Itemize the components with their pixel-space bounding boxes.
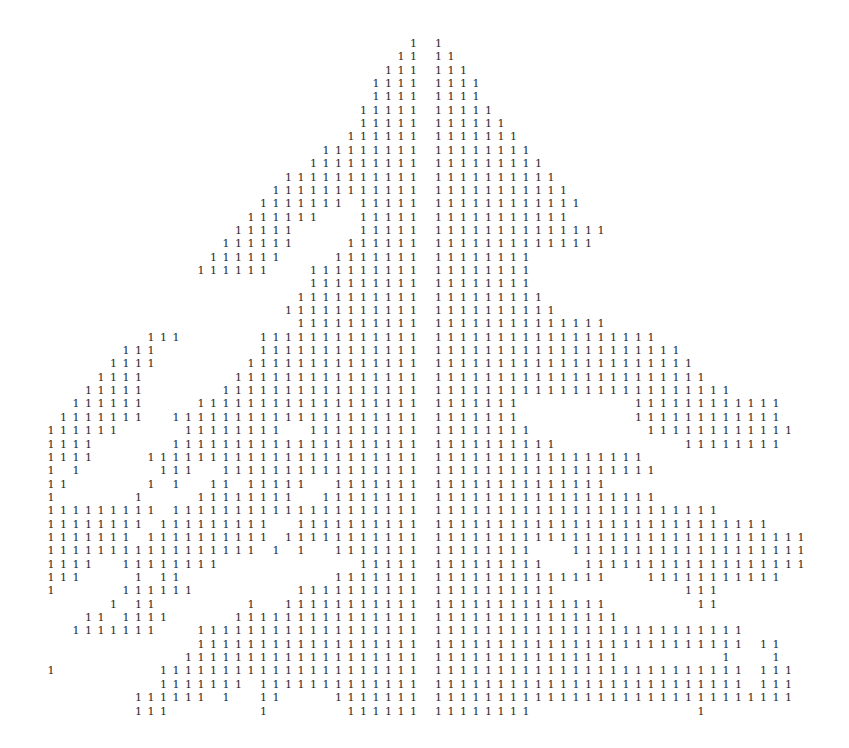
plot-glyph: 1 — [510, 625, 518, 636]
plot-glyph: 1 — [335, 679, 343, 690]
plot-glyph: 1 — [260, 679, 268, 690]
plot-glyph: 1 — [285, 599, 293, 610]
plot-glyph: 1 — [497, 185, 505, 196]
plot-glyph: 1 — [722, 652, 730, 663]
plot-glyph: 1 — [435, 358, 443, 369]
plot-glyph: 1 — [285, 505, 293, 516]
plot-glyph: 1 — [322, 639, 330, 650]
plot-glyph: 1 — [297, 305, 305, 316]
plot-glyph: 1 — [222, 625, 230, 636]
plot-glyph: 1 — [222, 238, 230, 249]
plot-glyph: 1 — [372, 612, 380, 623]
plot-glyph: 1 — [410, 172, 418, 183]
plot-glyph: 1 — [622, 639, 630, 650]
plot-glyph: 1 — [435, 599, 443, 610]
plot-glyph: 1 — [347, 665, 355, 676]
plot-glyph: 1 — [472, 372, 480, 383]
plot-glyph: 1 — [710, 585, 718, 596]
plot-glyph: 1 — [372, 559, 380, 570]
plot-glyph: 1 — [672, 412, 680, 423]
plot-glyph: 1 — [447, 679, 455, 690]
plot-glyph: 1 — [510, 212, 518, 223]
plot-glyph: 1 — [360, 292, 368, 303]
plot-glyph: 1 — [472, 118, 480, 129]
plot-glyph: 1 — [547, 599, 555, 610]
plot-glyph: 1 — [372, 519, 380, 530]
plot-glyph: 1 — [660, 559, 668, 570]
plot-glyph: 1 — [447, 452, 455, 463]
plot-glyph: 1 — [197, 505, 205, 516]
plot-glyph: 1 — [385, 612, 393, 623]
plot-glyph: 1 — [772, 545, 780, 556]
plot-glyph: 1 — [247, 479, 255, 490]
plot-glyph: 1 — [372, 398, 380, 409]
plot-glyph: 1 — [85, 532, 93, 543]
plot-glyph: 1 — [385, 185, 393, 196]
plot-glyph: 1 — [560, 612, 568, 623]
plot-glyph: 1 — [485, 585, 493, 596]
plot-glyph: 1 — [497, 599, 505, 610]
plot-glyph: 1 — [385, 105, 393, 116]
plot-glyph: 1 — [397, 198, 405, 209]
plot-glyph: 1 — [647, 692, 655, 703]
plot-glyph: 1 — [635, 385, 643, 396]
plot-glyph: 1 — [210, 679, 218, 690]
plot-glyph: 1 — [460, 665, 468, 676]
plot-glyph: 1 — [497, 612, 505, 623]
plot-glyph: 1 — [347, 692, 355, 703]
plot-glyph: 1 — [335, 492, 343, 503]
plot-glyph: 1 — [485, 519, 493, 530]
plot-glyph: 1 — [560, 238, 568, 249]
plot-glyph: 1 — [360, 612, 368, 623]
plot-glyph: 1 — [335, 292, 343, 303]
plot-glyph: 1 — [472, 639, 480, 650]
plot-glyph: 1 — [572, 545, 580, 556]
plot-glyph: 1 — [460, 118, 468, 129]
plot-glyph: 1 — [760, 679, 768, 690]
plot-glyph: 1 — [710, 625, 718, 636]
plot-glyph: 1 — [222, 425, 230, 436]
plot-glyph: 1 — [635, 412, 643, 423]
plot-glyph: 1 — [110, 425, 118, 436]
plot-glyph: 1 — [222, 665, 230, 676]
plot-glyph: 1 — [110, 385, 118, 396]
plot-glyph: 1 — [347, 532, 355, 543]
plot-glyph: 1 — [122, 398, 130, 409]
plot-glyph: 1 — [247, 385, 255, 396]
plot-glyph: 1 — [372, 332, 380, 343]
plot-glyph: 1 — [197, 425, 205, 436]
plot-glyph: 1 — [685, 692, 693, 703]
plot-glyph: 1 — [285, 452, 293, 463]
plot-glyph: 1 — [372, 238, 380, 249]
plot-glyph: 1 — [410, 652, 418, 663]
plot-glyph: 1 — [460, 505, 468, 516]
plot-glyph: 1 — [760, 519, 768, 530]
plot-glyph: 1 — [397, 452, 405, 463]
plot-glyph: 1 — [347, 505, 355, 516]
plot-glyph: 1 — [335, 198, 343, 209]
plot-glyph: 1 — [372, 345, 380, 356]
plot-glyph: 1 — [697, 545, 705, 556]
plot-glyph: 1 — [210, 265, 218, 276]
plot-glyph: 1 — [347, 131, 355, 142]
plot-glyph: 1 — [397, 599, 405, 610]
plot-glyph: 1 — [660, 532, 668, 543]
plot-glyph: 1 — [397, 585, 405, 596]
plot-glyph: 1 — [410, 625, 418, 636]
plot-glyph: 1 — [335, 398, 343, 409]
plot-glyph: 1 — [122, 585, 130, 596]
plot-glyph: 1 — [472, 439, 480, 450]
plot-glyph: 1 — [497, 639, 505, 650]
plot-glyph: 1 — [210, 412, 218, 423]
plot-glyph: 1 — [522, 158, 530, 169]
plot-glyph: 1 — [772, 692, 780, 703]
plot-glyph: 1 — [685, 585, 693, 596]
plot-glyph: 1 — [460, 612, 468, 623]
plot-glyph: 1 — [610, 639, 618, 650]
plot-glyph: 1 — [247, 212, 255, 223]
plot-glyph: 1 — [360, 278, 368, 289]
plot-glyph: 1 — [197, 492, 205, 503]
plot-glyph: 1 — [610, 652, 618, 663]
plot-glyph: 1 — [360, 185, 368, 196]
plot-glyph: 1 — [472, 225, 480, 236]
